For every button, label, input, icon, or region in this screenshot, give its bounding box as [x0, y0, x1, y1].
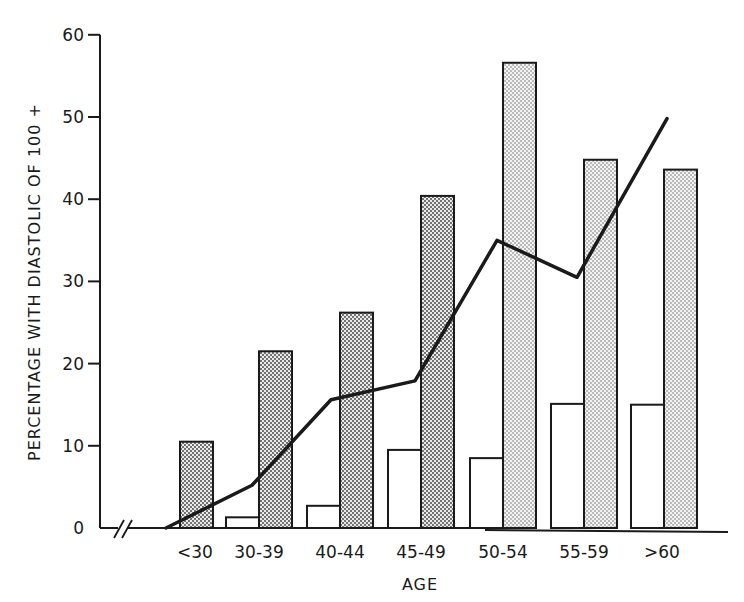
y-tick-label: 40 [62, 189, 84, 209]
stippled-bar [503, 63, 536, 528]
category-label: 45-49 [396, 542, 445, 562]
x-axis-line [485, 530, 728, 532]
category-label: 50-54 [478, 542, 527, 562]
category-labels: <3030-3940-4445-4950-5455-59>60 [177, 542, 680, 562]
category-label: >60 [644, 542, 680, 562]
stippled-bar [340, 313, 373, 528]
open-bar [388, 450, 421, 528]
category-label: 55-59 [559, 542, 608, 562]
y-tick-label: 30 [62, 271, 84, 291]
stippled-bar [664, 170, 697, 528]
bar-line-chart: 0102030405060 <3030-3940-4445-4950-5455-… [0, 0, 744, 602]
open-bar [470, 458, 503, 528]
open-bar [551, 404, 584, 528]
y-tick-label: 20 [62, 354, 84, 374]
y-tick-label: 0 [73, 518, 84, 538]
chart-figure: 0102030405060 <3030-3940-4445-4950-5455-… [0, 0, 744, 602]
y-axis-title: PERCENTAGE WITH DIASTOLIC OF 100 + [25, 103, 44, 461]
stippled-bar [259, 351, 292, 528]
y-tick-label: 10 [62, 436, 84, 456]
open-bar [226, 517, 259, 528]
y-axis: 0102030405060 [62, 25, 100, 538]
category-label: <30 [177, 542, 213, 562]
open-bar [631, 405, 664, 528]
category-label: 30-39 [234, 542, 283, 562]
y-tick-label: 50 [62, 107, 84, 127]
y-tick-label: 60 [62, 25, 84, 45]
category-label: 40-44 [315, 542, 364, 562]
x-axis-title: AGE [402, 575, 438, 594]
stippled-bar [180, 442, 213, 528]
open-bar [307, 506, 340, 528]
bars [180, 63, 697, 528]
